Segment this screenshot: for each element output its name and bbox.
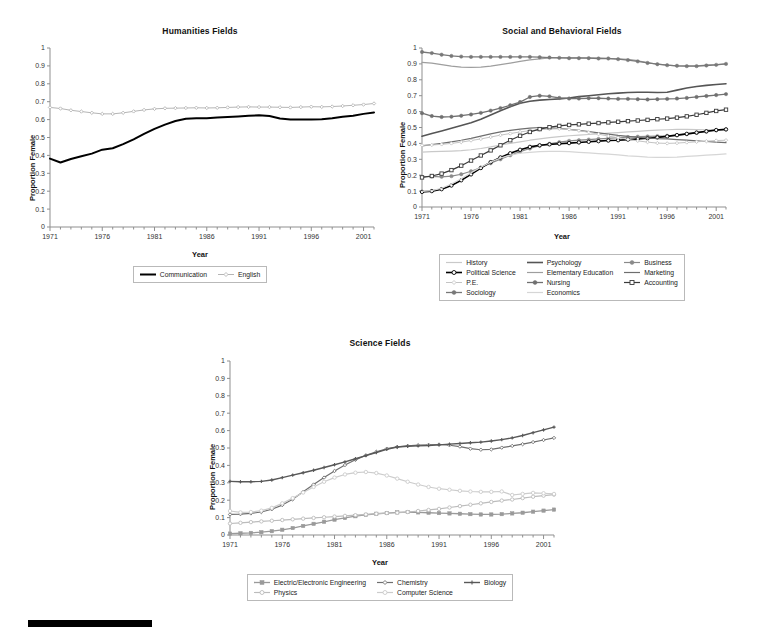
svg-text:0.1: 0.1	[407, 188, 417, 195]
legend-swatch-icon	[526, 258, 544, 267]
svg-text:1991: 1991	[251, 233, 267, 240]
legend-item-label: Nursing	[547, 278, 570, 287]
svg-text:1996: 1996	[659, 213, 675, 220]
legend-item[interactable]: Political Science	[445, 268, 516, 277]
legend-item-label: Computer Science	[397, 588, 453, 597]
svg-text:1981: 1981	[327, 541, 343, 548]
svg-text:0.9: 0.9	[407, 60, 417, 67]
plot-area-social: 10.90.80.70.60.50.40.30.20.1019711976198…	[392, 42, 752, 227]
legend-item[interactable]: Communication	[139, 270, 207, 279]
svg-text:1981: 1981	[147, 233, 163, 240]
svg-text:1976: 1976	[94, 233, 110, 240]
legend-item[interactable]: English	[217, 270, 260, 279]
legend-item[interactable]: Business	[623, 258, 678, 267]
legend-item[interactable]: Accounting	[623, 278, 678, 287]
legend-swatch-icon	[526, 268, 544, 277]
legend-item-label: Marketing	[644, 268, 674, 277]
svg-text:0.5: 0.5	[407, 124, 417, 131]
legend-swatch-icon	[445, 278, 463, 287]
svg-text:2001: 2001	[536, 541, 552, 548]
svg-text:0.6: 0.6	[35, 116, 45, 123]
legend-swatch-icon	[463, 578, 481, 587]
legend-item-label: English	[238, 270, 260, 279]
legend-item-label: Biology	[484, 578, 506, 587]
legend-item-label: Psychology	[547, 258, 582, 267]
legend-item-label: Economics	[547, 288, 580, 297]
svg-text:1986: 1986	[561, 213, 577, 220]
x-axis-label-science: Year	[200, 558, 560, 567]
legend-swatch-icon	[376, 588, 394, 597]
chart-title-humanities: Humanities Fields	[20, 26, 380, 36]
svg-text:0.1: 0.1	[215, 514, 225, 521]
legend-item[interactable]: Chemistry	[376, 578, 453, 587]
legend-item[interactable]: Psychology	[526, 258, 614, 267]
svg-text:0.6: 0.6	[215, 427, 225, 434]
legend-science-wrap: Electric/Electronic EngineeringChemistry…	[200, 574, 560, 601]
svg-text:1991: 1991	[610, 213, 626, 220]
legend-swatch-icon	[526, 278, 544, 287]
svg-text:1: 1	[41, 44, 45, 51]
legend-item[interactable]: Biology	[463, 578, 506, 587]
legend-swatch-icon	[623, 258, 641, 267]
legend-item-label: Political Science	[466, 268, 516, 277]
svg-text:0.3: 0.3	[407, 156, 417, 163]
svg-text:1: 1	[413, 44, 417, 51]
svg-text:0.8: 0.8	[407, 76, 417, 83]
legend-swatch-icon	[623, 268, 641, 277]
legend-swatch-icon	[376, 578, 394, 587]
legend-item[interactable]: Sociology	[445, 288, 516, 297]
legend-social-wrap: HistoryPsychologyBusinessPolitical Scien…	[392, 254, 732, 301]
legend-item[interactable]: Physics	[253, 588, 366, 597]
legend-swatch-icon	[253, 578, 271, 587]
svg-text:1986: 1986	[199, 233, 215, 240]
legend-item-label: Physics	[274, 588, 297, 597]
svg-text:0.7: 0.7	[35, 98, 45, 105]
svg-text:2001: 2001	[356, 233, 372, 240]
svg-text:1986: 1986	[379, 541, 395, 548]
plot-area-science: 10.90.80.70.60.50.40.30.20.1019711976198…	[200, 355, 560, 555]
legend-item-label: Electric/Electronic Engineering	[274, 578, 366, 587]
svg-text:0.9: 0.9	[215, 375, 225, 382]
svg-text:1: 1	[221, 357, 225, 364]
svg-text:0.8: 0.8	[35, 80, 45, 87]
legend-swatch-icon	[217, 270, 235, 279]
chart-panel-humanities: Humanities Fields 10.90.80.70.60.50.40.3…	[20, 26, 380, 291]
svg-text:0.4: 0.4	[407, 140, 417, 147]
svg-text:1981: 1981	[512, 213, 528, 220]
legend-item[interactable]: P.E.	[445, 278, 516, 287]
legend-humanities-wrap: CommunicationEnglish	[20, 266, 380, 283]
legend-item[interactable]: Nursing	[526, 278, 614, 287]
svg-text:0: 0	[221, 531, 225, 538]
legend-swatch-icon	[445, 268, 463, 277]
svg-text:0.1: 0.1	[35, 206, 45, 213]
y-axis-label-humanities: Proportion Female	[28, 135, 37, 201]
svg-text:1996: 1996	[304, 233, 320, 240]
chart-panel-science: Science Fields 10.90.80.70.60.50.40.30.2…	[200, 338, 560, 613]
legend-item-label: Elementary Education	[547, 268, 614, 277]
chart-panel-social: Social and Behavioral Fields 10.90.80.70…	[392, 26, 752, 326]
legend-item[interactable]: Marketing	[623, 268, 678, 277]
legend-item[interactable]: History	[445, 258, 516, 267]
legend-item[interactable]: Elementary Education	[526, 268, 614, 277]
svg-text:1971: 1971	[222, 541, 238, 548]
legend-social: HistoryPsychologyBusinessPolitical Scien…	[439, 254, 685, 301]
legend-swatch-icon	[139, 270, 157, 279]
svg-text:1976: 1976	[274, 541, 290, 548]
svg-text:1971: 1971	[414, 213, 430, 220]
svg-text:1976: 1976	[463, 213, 479, 220]
svg-text:0: 0	[41, 223, 45, 230]
legend-item-label: P.E.	[466, 278, 478, 287]
legend-item[interactable]: Electric/Electronic Engineering	[253, 578, 366, 587]
legend-item-label: History	[466, 258, 487, 267]
legend-swatch-icon	[445, 258, 463, 267]
legend-science: Electric/Electronic EngineeringChemistry…	[247, 574, 513, 601]
legend-item-label: Communication	[160, 270, 207, 279]
legend-humanities: CommunicationEnglish	[133, 266, 268, 283]
svg-text:0: 0	[413, 203, 417, 210]
svg-text:0.7: 0.7	[215, 410, 225, 417]
legend-item[interactable]: Economics	[526, 288, 614, 297]
svg-text:1991: 1991	[431, 541, 447, 548]
legend-item-label: Chemistry	[397, 578, 428, 587]
legend-item-label: Sociology	[466, 288, 495, 297]
legend-item[interactable]: Computer Science	[376, 588, 453, 597]
